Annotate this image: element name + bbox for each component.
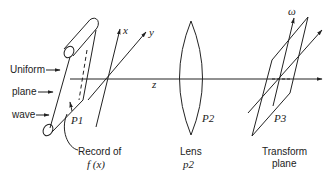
svg-text:f (x): f (x) [87, 158, 105, 171]
svg-text:Lens: Lens [180, 146, 202, 157]
svg-text:z: z [151, 78, 157, 90]
p1-label: P1 [70, 114, 83, 126]
svg-text:P3: P3 [273, 112, 287, 124]
optical-diagram: z x y Uniform plane wave P1 [0, 0, 331, 177]
svg-text:Transform: Transform [262, 146, 307, 157]
svg-text:p2: p2 [182, 158, 195, 170]
record-film-p1 [41, 18, 98, 137]
uniform-plane-wave-label: Uniform plane wave [10, 64, 60, 120]
transform-plane-p3: ω P3 Transform plane [248, 5, 322, 169]
svg-text:x: x [122, 24, 128, 36]
lens-p2: P2 Lens p2 [180, 21, 215, 170]
svg-text:wave: wave [11, 109, 36, 120]
svg-text:plane: plane [272, 158, 297, 169]
svg-text:P2: P2 [201, 112, 215, 124]
svg-text:Record of: Record of [78, 146, 122, 157]
svg-text:ω: ω [288, 5, 296, 17]
svg-text:plane: plane [12, 86, 37, 97]
xy-axes: x y [88, 24, 154, 127]
svg-text:y: y [148, 26, 154, 38]
svg-text:Uniform: Uniform [10, 64, 45, 75]
